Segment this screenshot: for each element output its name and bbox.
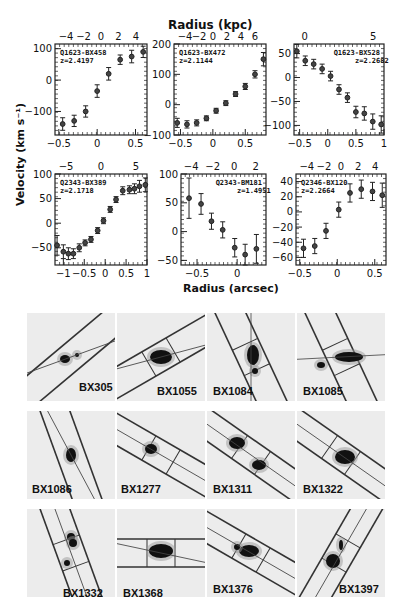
- y-tick-label: 50: [278, 48, 291, 59]
- x-top-tick-label: −4: [59, 31, 74, 42]
- data-point: [379, 122, 384, 127]
- galaxy-blob: [317, 362, 325, 368]
- x-top-tick-label: −2: [317, 161, 332, 172]
- data-point: [61, 249, 66, 254]
- x-tick-label: 1: [381, 138, 387, 149]
- x-top-tick-label: 0: [98, 161, 104, 172]
- x-tick-label: 0.5: [118, 268, 134, 279]
- data-point: [370, 119, 375, 124]
- stamp-label: BX1086: [32, 483, 72, 495]
- x-top-tick-label: −4: [178, 31, 193, 42]
- x-tick-label: 0: [234, 268, 240, 279]
- data-point: [348, 191, 353, 196]
- object-name: Q1623-BX472: [179, 49, 225, 57]
- galaxy-blob: [252, 368, 258, 374]
- y-tick-label: 0: [165, 99, 171, 110]
- data-point: [83, 109, 88, 114]
- data-point: [175, 120, 180, 125]
- galaxy-stamp: BX305: [27, 313, 115, 401]
- y-tick-label: −100: [144, 130, 171, 141]
- data-point: [60, 122, 65, 127]
- data-point: [243, 84, 248, 89]
- galaxy-blob: [247, 345, 259, 365]
- rotation-curve-panel: −0.50−4−202100500−50Q2343-BM181z=1.4951: [157, 161, 271, 279]
- galaxy-stamp: BX1368: [117, 509, 205, 597]
- data-point: [194, 120, 199, 125]
- redshift-label: z=2.2682: [355, 57, 389, 65]
- data-point: [141, 49, 146, 54]
- y-tick-label: 200: [152, 39, 171, 50]
- x-top-tick-label: −4: [299, 161, 314, 172]
- galaxy-stamp: BX1055: [117, 313, 205, 401]
- x-top-tick-label: −2: [192, 31, 207, 42]
- redshift-label: z=2.4197: [60, 57, 94, 65]
- galaxy-stamp: BX1277: [117, 411, 205, 499]
- redshift-label: z=1.4951: [237, 187, 271, 195]
- rotation-curve-panel: −0.500.5−4−202440200−20−40−60Q2346-BX120…: [272, 161, 386, 279]
- galaxy-stamp: BX1085: [297, 313, 385, 401]
- galaxy-blob: [252, 460, 266, 470]
- bottom-axis-title: Radius (arcsec): [183, 282, 279, 295]
- y-tick-label: −50: [270, 96, 291, 107]
- x-top-tick-label: 4: [372, 161, 378, 172]
- data-point: [129, 54, 134, 59]
- data-point: [301, 246, 306, 251]
- x-tick-label: 0: [102, 268, 108, 279]
- x-top-tick-label: 2: [253, 161, 259, 172]
- data-point: [66, 251, 71, 256]
- x-top-tick-label: 6: [252, 31, 258, 42]
- galaxy-blob: [335, 450, 355, 464]
- data-point: [214, 108, 219, 113]
- data-point: [294, 49, 299, 54]
- y-tick-label: −100: [264, 120, 291, 131]
- data-point: [95, 228, 100, 233]
- y-tick-label: 100: [33, 169, 52, 180]
- data-point: [253, 72, 258, 77]
- data-point: [204, 116, 209, 121]
- object-name: Q2343-BM181: [216, 179, 262, 187]
- slit-overlay: [27, 509, 115, 597]
- y-tick-label: −20: [272, 222, 293, 233]
- x-top-tick-label: 2: [355, 161, 361, 172]
- data-point: [132, 186, 137, 191]
- data-point: [337, 87, 342, 92]
- x-tick-label: 0: [94, 138, 100, 149]
- x-top-tick-label: 5: [133, 161, 139, 172]
- data-point: [143, 182, 148, 187]
- galaxy-stamp: BX1086: [27, 411, 115, 499]
- stamp-label: BX1085: [303, 385, 343, 397]
- y-tick-label: 20: [280, 191, 293, 202]
- x-tick-label: −0.5: [72, 268, 96, 279]
- object-name: Q1623-BX458: [60, 49, 106, 57]
- data-point: [303, 58, 308, 63]
- data-point: [233, 92, 238, 97]
- data-point: [137, 184, 142, 189]
- stamp-label: BX1332: [63, 587, 103, 597]
- data-point: [320, 67, 325, 72]
- stamp-label: BX1277: [121, 483, 161, 495]
- x-top-tick-label: 2: [115, 31, 121, 42]
- object-name: Q1623-BX528: [334, 49, 380, 57]
- x-top-tick-label: 5: [370, 31, 376, 42]
- data-point: [55, 243, 60, 248]
- rotation-curve-panel: −0.500.5−4−20241000−100Q1623-BX458z=2.41…: [25, 31, 147, 149]
- data-point: [336, 207, 341, 212]
- data-point: [311, 62, 316, 67]
- data-point: [232, 245, 237, 250]
- rotation-curve-panel: −0.500.5105500−50−100Q1623-BX528z=2.2682: [264, 31, 389, 149]
- y-tick-label: 100: [159, 169, 178, 180]
- x-tick-label: 0.5: [348, 138, 364, 149]
- x-top-tick-label: 0: [302, 31, 308, 42]
- y-tick-label: −50: [157, 255, 178, 266]
- stamp-label: BX305: [79, 381, 113, 393]
- y-tick-label: 0: [285, 72, 291, 83]
- galaxy-blob: [229, 437, 245, 449]
- data-point: [261, 57, 266, 62]
- x-tick-label: −0.5: [168, 138, 192, 149]
- stamp-label: BX1397: [339, 583, 379, 595]
- y-tick-label: −40: [272, 237, 293, 248]
- y-tick-label: 50: [39, 193, 52, 204]
- x-top-tick-label: 0: [210, 31, 216, 42]
- x-tick-label: 0: [210, 138, 216, 149]
- data-point: [101, 218, 106, 223]
